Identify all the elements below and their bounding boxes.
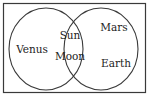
label-earth: Earth bbox=[101, 57, 131, 69]
venn-diagram: Venus Sun Moon Mars Earth bbox=[0, 0, 148, 96]
label-moon: Moon bbox=[55, 50, 85, 62]
label-venus: Venus bbox=[15, 43, 48, 55]
label-mars: Mars bbox=[100, 21, 127, 33]
label-sun: Sun bbox=[60, 29, 81, 41]
